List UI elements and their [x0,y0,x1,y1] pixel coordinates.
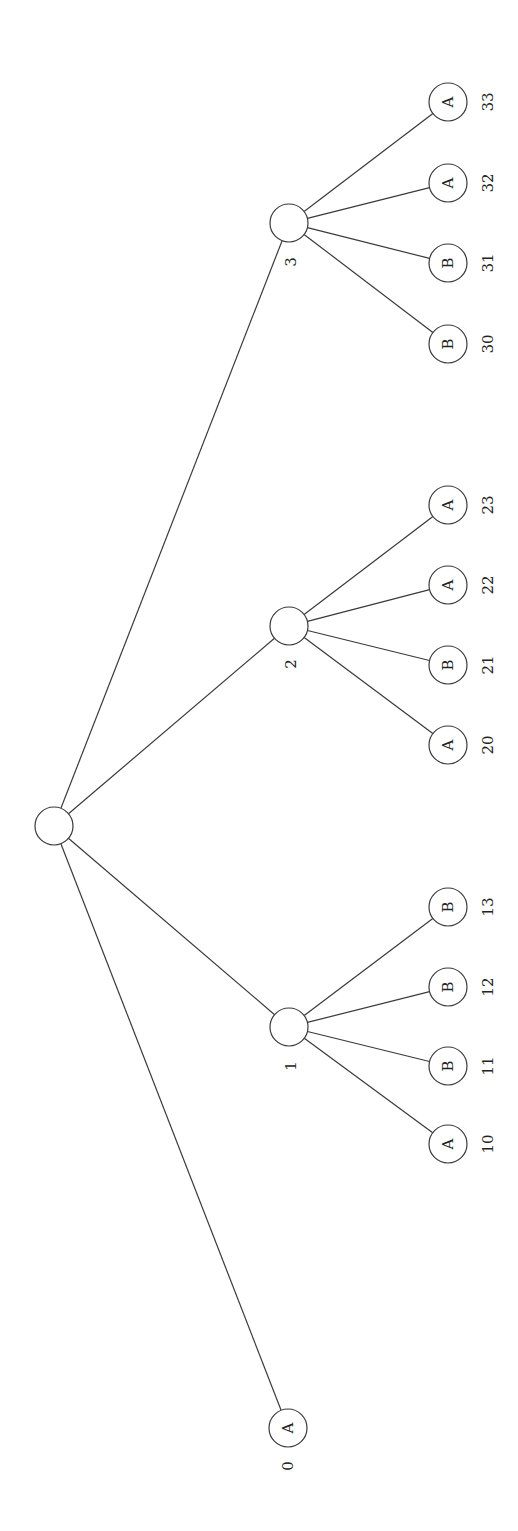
node-letter: A [439,1138,457,1150]
node-index-label: 21 [479,655,497,674]
tree-node-n2 [270,607,308,645]
node-index-label: 33 [479,92,497,111]
edge-n3-n32 [307,188,429,219]
tree-node-n12: B [429,968,467,1006]
node-index-label: 20 [479,735,497,754]
node-index-label: 22 [479,575,497,594]
node-circle [270,1008,308,1046]
edge-n3-n30 [304,235,433,333]
edge-root-n3 [61,241,282,809]
node-index-label: 23 [479,495,497,514]
node-letter: A [439,96,457,108]
node-index-label: 1 [282,1061,300,1071]
tree-node-root [35,807,73,845]
node-circle [270,204,308,242]
edges-layer [61,114,433,1411]
node-index-label: 3 [282,257,300,267]
node-index-label: 32 [479,173,497,192]
node-letter: B [439,659,457,670]
tree-node-n10: A [429,1125,467,1163]
node-index-label: 0 [279,1461,297,1471]
tree-node-n20: A [429,726,467,764]
tree-node-n11: B [429,1047,467,1085]
nodes-layer: AABBBABAABBAA [35,83,467,1447]
tree-node-n33: A [429,83,467,121]
node-letter: B [439,338,457,349]
tree-node-n13: B [429,888,467,926]
tree-node-n22: A [429,566,467,604]
edge-n1-n10 [304,1038,432,1132]
edge-n2-n20 [304,637,433,733]
edge-n3-n33 [304,114,433,212]
node-letter: A [439,739,457,751]
node-letter: A [439,177,457,189]
node-letter: B [439,1060,457,1071]
tree-node-n3 [270,204,308,242]
edge-n2-n22 [307,590,429,622]
edge-n1-n12 [307,992,429,1023]
node-index-label: 13 [479,897,497,916]
node-letter: B [439,901,457,912]
node-letter: B [439,981,457,992]
node-index-label: 12 [479,977,497,996]
edge-n1-n13 [304,918,433,1015]
node-index-label: 31 [479,253,497,272]
edge-n2-n21 [308,631,430,661]
edge-root-n1 [68,838,274,1014]
tree-node-n21: B [429,646,467,684]
tree-node-n0: A [269,1409,307,1447]
node-index-label: 2 [282,659,300,669]
tree-diagram: AABBBABAABBAA 01231011121320212223303132… [0,0,518,1531]
tree-node-n32: A [429,164,467,202]
node-letter: B [439,257,457,268]
node-index-label: 10 [479,1134,497,1153]
node-letter: A [279,1422,297,1434]
node-index-label: 11 [479,1056,497,1075]
tree-node-n31: B [429,244,467,282]
node-letter: A [439,499,457,511]
node-circle [35,807,73,845]
tree-node-n23: A [429,486,467,524]
tree-node-n30: B [429,325,467,363]
node-index-label: 30 [479,334,497,353]
node-letter: A [439,579,457,591]
edge-n3-n31 [307,228,429,259]
edge-root-n0 [61,844,281,1411]
edge-n1-n11 [308,1032,430,1062]
edge-n2-n23 [304,517,433,615]
node-circle [270,607,308,645]
edge-root-n2 [69,638,275,813]
index-labels-layer: 0123101112132021222330313233 [279,92,497,1470]
tree-node-n1 [270,1008,308,1046]
